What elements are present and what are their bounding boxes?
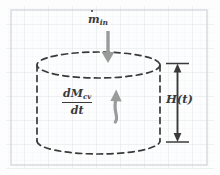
mdot-letter: m — [88, 13, 100, 26]
numerator-main: dM — [63, 87, 83, 100]
figure-canvas: min dMcv dt H(t) — [0, 0, 220, 175]
mdot-subscript: in — [100, 18, 108, 27]
height-dimension-layer — [0, 0, 220, 175]
height-arrowhead-bottom — [174, 133, 182, 142]
fraction-denominator: dt — [62, 104, 92, 116]
height-label: H(t) — [166, 94, 193, 106]
fraction-numerator: dMcv — [62, 88, 92, 101]
inlet-flow-label: min — [88, 14, 108, 27]
numerator-subscript: cv — [83, 92, 91, 101]
mdot-overdot-icon — [91, 10, 93, 12]
fraction-bar — [62, 102, 92, 103]
mdot-symbol: m — [88, 14, 100, 25]
accumulation-label: dMcv dt — [62, 88, 92, 116]
height-arrowhead-top — [174, 64, 182, 73]
